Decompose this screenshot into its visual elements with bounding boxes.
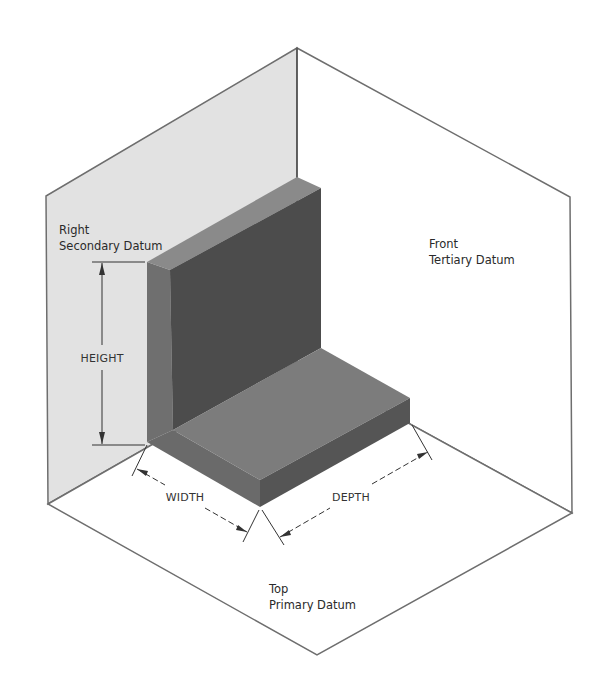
right-plane-label-line2: Secondary Datum — [59, 239, 162, 253]
datum-reference-frame-diagram: HEIGHT WIDTH DEPTH Right Secondary Datum… — [0, 0, 605, 700]
height-label: HEIGHT — [80, 352, 123, 365]
front-plane-label-line2: Tertiary Datum — [428, 253, 515, 267]
top-plane-label-line2: Primary Datum — [269, 598, 356, 612]
right-plane-label-line1: Right — [59, 223, 90, 237]
wall-side-face — [147, 262, 173, 442]
front-plane-label-line1: Front — [429, 237, 459, 251]
top-plane-label-line1: Top — [268, 582, 288, 596]
width-label: WIDTH — [166, 491, 205, 504]
depth-label: DEPTH — [332, 491, 370, 504]
